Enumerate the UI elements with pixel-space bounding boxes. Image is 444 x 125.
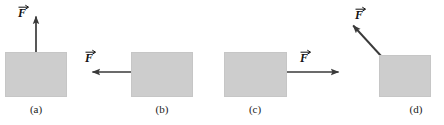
vector-arrow-icon (85, 49, 93, 53)
caption-c: (c) (235, 103, 275, 115)
caption-a: (a) (16, 103, 56, 115)
vector-arrow-icon (300, 49, 308, 53)
vector-arrow-icon (18, 4, 26, 8)
force-arrow-d (353, 26, 382, 58)
caption-b: (b) (142, 103, 182, 115)
block-d (379, 55, 431, 97)
force-label-a: F (18, 4, 26, 19)
force-label-b: F (85, 49, 93, 64)
force-label-c: F (300, 49, 308, 64)
physics-force-diagram: F (a) F (b) F (c) F (0, 0, 444, 125)
block-b (131, 52, 193, 97)
block-a (5, 52, 67, 97)
block-c (224, 52, 287, 97)
caption-d: (d) (396, 103, 436, 115)
vector-arrow-icon (355, 6, 363, 10)
force-label-d: F (355, 6, 363, 21)
